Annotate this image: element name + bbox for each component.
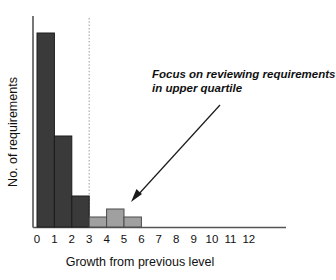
annotation-arrow-head [131, 189, 142, 202]
bar-category-4 [89, 217, 106, 227]
bar-category-5 [107, 209, 124, 227]
bar-category-3 [72, 196, 89, 227]
x-tick-label-6: 6 [138, 233, 144, 245]
x-tick-label-2: 2 [69, 233, 75, 245]
x-tick-label-0: 0 [34, 233, 40, 245]
x-tick-label-5: 5 [121, 233, 127, 245]
annotation-text-line-1: Focus on reviewing requirements [152, 68, 335, 80]
histogram-chart: No. of requirements 0 1 2 3 4 5 6 7 8 9 … [0, 0, 336, 280]
x-tick-label-1: 1 [51, 233, 57, 245]
bar-category-6 [124, 217, 141, 227]
x-tick-label-10: 10 [206, 233, 219, 245]
y-axis-label: No. of requirements [6, 77, 20, 187]
x-axis-label: Growth from previous level [66, 255, 215, 269]
x-tick-label-7: 7 [156, 233, 162, 245]
bar-category-1 [37, 33, 54, 227]
bar-category-2 [54, 136, 71, 227]
x-tick-label-9: 9 [190, 233, 196, 245]
annotation-arrow-line [137, 105, 220, 196]
x-tick-label-3: 3 [86, 233, 92, 245]
x-tick-label-8: 8 [173, 233, 179, 245]
x-tick-label-11: 11 [224, 233, 236, 245]
x-tick-label-12: 12 [242, 233, 255, 245]
x-tick-label-4: 4 [103, 233, 110, 245]
annotation-text-line-2: in upper quartile [152, 82, 243, 94]
